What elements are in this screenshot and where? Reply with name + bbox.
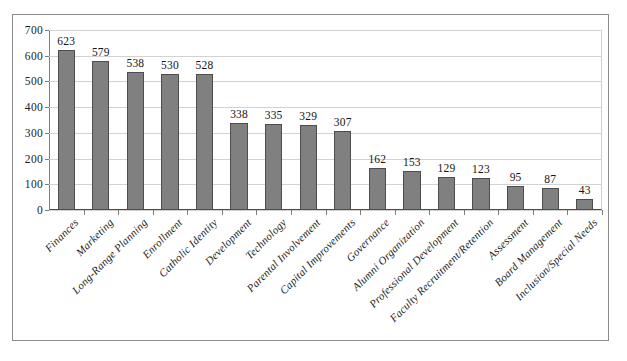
bar-item[interactable] — [438, 30, 455, 210]
bar-value-label: 87 — [539, 173, 562, 185]
bar[interactable] — [161, 74, 178, 210]
bar[interactable] — [265, 124, 282, 210]
y-axis-tick-label: 100 — [25, 178, 43, 190]
bar-value-label: 123 — [469, 163, 492, 175]
y-axis-tick-label: 500 — [25, 75, 43, 87]
bar[interactable] — [576, 199, 593, 210]
bar[interactable] — [92, 61, 109, 210]
x-axis-tick-mark — [602, 210, 603, 215]
bar[interactable] — [542, 188, 559, 210]
bar-value-label: 579 — [89, 46, 112, 58]
bar-value-label: 129 — [435, 162, 458, 174]
bar-value-label: 623 — [55, 35, 78, 47]
bar[interactable] — [438, 177, 455, 210]
y-axis-tick-label: 700 — [25, 24, 43, 36]
y-axis-tick-label: 400 — [25, 101, 43, 113]
bar[interactable] — [472, 178, 489, 210]
bar-value-label: 307 — [331, 116, 354, 128]
bar-item[interactable] — [161, 30, 178, 210]
bar-item[interactable] — [58, 30, 75, 210]
bar-item[interactable] — [196, 30, 213, 210]
bar[interactable] — [507, 186, 524, 210]
y-axis-tick-label: 300 — [25, 127, 43, 139]
bar-item[interactable] — [369, 30, 386, 210]
bar-value-label: 162 — [366, 153, 389, 165]
bar[interactable] — [334, 131, 351, 210]
y-axis-tick-label: 0 — [37, 204, 43, 216]
bar-value-label: 528 — [193, 59, 216, 71]
bar[interactable] — [196, 74, 213, 210]
bar[interactable] — [58, 50, 75, 210]
bar-value-label: 538 — [124, 57, 147, 69]
y-axis-tick-label: 600 — [25, 50, 43, 62]
bar[interactable] — [300, 125, 317, 210]
bar-value-label: 153 — [400, 156, 423, 168]
bar-value-label: 335 — [262, 109, 285, 121]
bar-item[interactable] — [507, 30, 524, 210]
chart-figure: 0100200300400500600700 62357953853052833… — [12, 14, 609, 341]
plot-area: 0100200300400500600700 62357953853052833… — [49, 30, 602, 210]
bar-value-label: 530 — [158, 59, 181, 71]
bar-value-label: 338 — [227, 108, 250, 120]
bar[interactable] — [127, 72, 144, 210]
x-axis-category-labels: FinancesMarketingLong-Range PlanningEnro… — [49, 210, 602, 335]
y-axis-tick-label: 200 — [25, 153, 43, 165]
bar[interactable] — [230, 123, 247, 210]
bar[interactable] — [369, 168, 386, 210]
bar-item[interactable] — [403, 30, 420, 210]
bar-value-label: 95 — [504, 171, 527, 183]
bar-item[interactable] — [472, 30, 489, 210]
bar[interactable] — [403, 171, 420, 210]
bar-series: 6235795385305283383353293071621531291239… — [49, 30, 602, 210]
bar-value-label: 43 — [573, 184, 596, 196]
bar-value-label: 329 — [297, 110, 320, 122]
